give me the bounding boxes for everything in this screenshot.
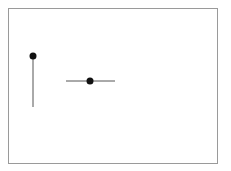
top-dot-icon: [30, 53, 37, 60]
horizontal-segment-group: [66, 78, 115, 85]
midpoint-dot-icon: [87, 78, 94, 85]
vertical-segment-group: [30, 53, 37, 108]
diagram-canvas: [0, 0, 231, 171]
